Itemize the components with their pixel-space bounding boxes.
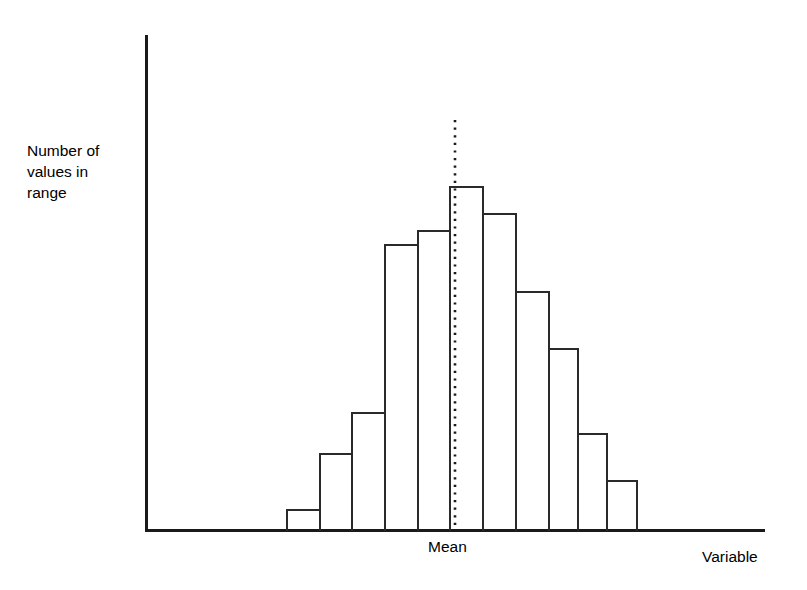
bar-7 [483,214,516,531]
y-axis-label-line-2: values in [27,163,88,180]
bar-5 [418,231,450,531]
histogram-plot [0,0,807,590]
histogram-figure: Number ofvalues inrange Mean Variable [0,0,807,590]
histogram-bars [287,187,637,531]
mean-axis-label: Mean [428,536,467,557]
bar-4 [385,245,418,531]
bar-3 [352,413,385,531]
bar-2 [320,454,352,531]
y-axis-label-line-3: range [27,184,67,201]
x-axis-label: Variable [702,546,758,567]
bar-9 [549,349,578,531]
bar-1 [287,510,320,531]
bar-11 [607,481,637,531]
y-axis-label: Number ofvalues inrange [27,140,137,203]
y-axis-label-line-1: Number of [27,142,99,159]
bar-10 [578,434,607,531]
bar-8 [516,292,549,531]
